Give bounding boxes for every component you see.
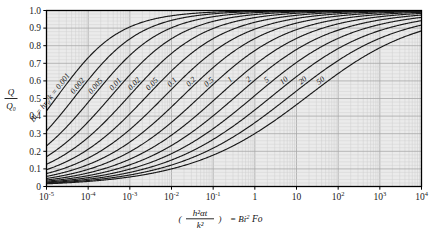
- y-tick-label: 0.2: [29, 147, 41, 157]
- y-tick-label: 0.1: [29, 164, 41, 174]
- x-axis-fourier: Fo: [250, 214, 263, 224]
- x-tick-exponent: -5: [49, 190, 54, 197]
- mask-top: [0, 0, 444, 11]
- y-axis-numerator: Q: [8, 87, 15, 97]
- y-tick-label: 0.8: [29, 41, 41, 51]
- y-tick-label: 0.9: [29, 23, 41, 33]
- mask-right: [422, 0, 444, 241]
- y-tick-label: 1.0: [29, 6, 41, 16]
- x-tick-label: 1: [252, 192, 257, 202]
- x-tick-label: 10: [292, 192, 302, 202]
- y-tick-label: 0.3: [29, 129, 41, 139]
- y-tick-label: 0.6: [29, 76, 41, 86]
- x-axis-denominator: k²: [197, 220, 204, 230]
- x-axis-numerator: h²αt: [193, 208, 208, 218]
- x-tick-exponent: 3: [383, 190, 386, 197]
- x-tick-exponent: -4: [90, 190, 96, 197]
- x-tick-exponent: 2: [341, 190, 344, 197]
- x-tick-exponent: -1: [215, 190, 220, 197]
- y-tick-label: 0.7: [29, 59, 41, 69]
- x-tick-exponent: -2: [174, 190, 179, 197]
- x-axis-paren-right: ): [218, 214, 222, 224]
- y-tick-label: 0: [36, 182, 41, 192]
- chart-canvas: 10-510-410-310-210-111010210310400.10.20…: [0, 0, 444, 241]
- heisler-chart-figure: 10-510-410-310-210-111010210310400.10.20…: [0, 0, 444, 241]
- y-axis-denominator: Q₀: [6, 101, 16, 111]
- x-tick-exponent: -3: [132, 190, 137, 197]
